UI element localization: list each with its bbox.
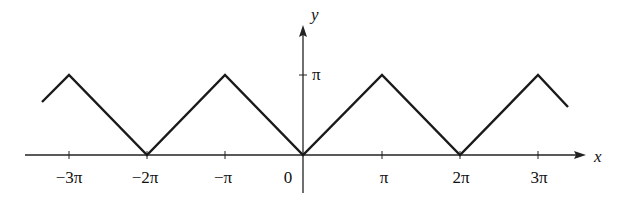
tick-label-3pi: 3π bbox=[530, 168, 548, 187]
tick-label-neg2pi: −2π bbox=[132, 168, 159, 187]
triangle-wave-plot: −3π −2π −π 0 π 2π 3π π y x bbox=[0, 0, 626, 201]
x-axis-label: x bbox=[593, 147, 602, 166]
tick-label-negpi: −π bbox=[214, 168, 233, 187]
y-axis-label: y bbox=[309, 5, 319, 24]
tick-label-pi: π bbox=[380, 168, 389, 187]
tick-label-2pi: 2π bbox=[452, 168, 470, 187]
tick-label-zero: 0 bbox=[284, 168, 293, 187]
tick-label-neg3pi: −3π bbox=[56, 168, 83, 187]
triangle-wave-line bbox=[42, 75, 568, 155]
y-tick-label-pi: π bbox=[312, 65, 321, 84]
